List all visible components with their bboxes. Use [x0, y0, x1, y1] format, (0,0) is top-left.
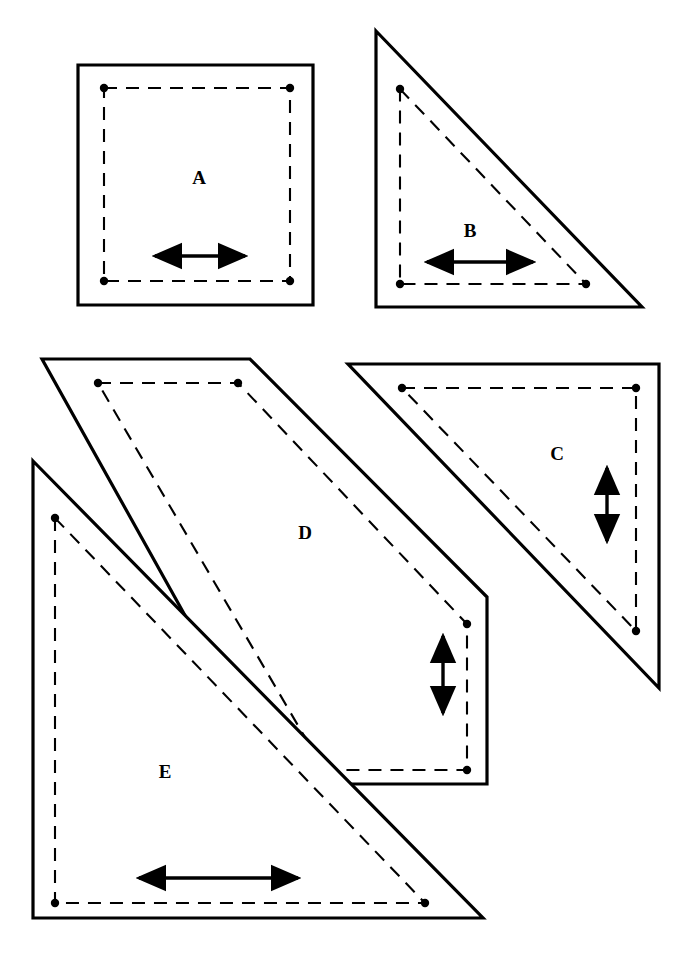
- seam-dot-c: [632, 384, 640, 392]
- seam-dot-b: [396, 85, 404, 93]
- shape-a-label: A: [192, 167, 206, 188]
- shape-c-label: C: [550, 443, 564, 464]
- seam-dot-c: [398, 384, 406, 392]
- shape-group-a[interactable]: A: [78, 65, 313, 305]
- seam-dot-a: [286, 277, 294, 285]
- shape-d-label: D: [298, 522, 312, 543]
- seam-dot-c: [632, 627, 640, 635]
- seam-dot-e: [51, 899, 59, 907]
- seam-dot-b: [582, 280, 590, 288]
- seam-dot-a: [286, 84, 294, 92]
- seam-dot-d: [94, 379, 102, 387]
- shape-b-label: B: [464, 220, 477, 241]
- seam-dot-a: [100, 84, 108, 92]
- diagram-canvas: A B C D E: [0, 0, 693, 956]
- seam-dot-d: [234, 379, 242, 387]
- seam-dot-d: [463, 620, 471, 628]
- seam-dot-b: [396, 280, 404, 288]
- seam-dot-a: [100, 277, 108, 285]
- seam-dot-e: [51, 514, 59, 522]
- seam-dot-e: [421, 899, 429, 907]
- shapes-diagram: A B C D E: [0, 0, 693, 956]
- shape-e-label: E: [159, 761, 172, 782]
- seam-dot-d: [463, 766, 471, 774]
